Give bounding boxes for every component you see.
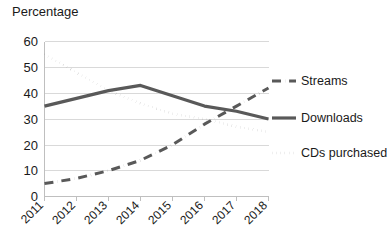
- chart-plot-area: 60 50 40 30 20 10 0 2011 2012 2013 2014 …: [0, 0, 389, 249]
- series-line-downloads: [45, 85, 269, 119]
- y-tick-label-30: 30: [24, 112, 38, 127]
- series-line-streams: [45, 88, 269, 184]
- x-tickmarks: [45, 197, 269, 201]
- line-chart: Percentage 60 50 40: [0, 0, 389, 249]
- x-tick-label-2013: 2013: [81, 198, 110, 227]
- x-tick-label-2015: 2015: [145, 198, 174, 227]
- x-tick-label-2011: 2011: [18, 198, 46, 226]
- y-tick-label-20: 20: [24, 138, 38, 153]
- legend-item-cds-purchased[interactable]: CDs purchased: [272, 146, 387, 160]
- legend-item-streams[interactable]: Streams: [272, 74, 348, 88]
- x-tick-labels: 2011 2012 2013 2014 2015 2016 2017 2018: [18, 198, 270, 227]
- legend-label-streams: Streams: [301, 74, 348, 88]
- y-tick-label-60: 60: [24, 34, 38, 49]
- y-tick-label-40: 40: [24, 86, 38, 101]
- x-tick-label-2016: 2016: [177, 198, 206, 227]
- y-tick-label-50: 50: [24, 60, 38, 75]
- legend-label-downloads: Downloads: [301, 111, 363, 125]
- legend-item-downloads[interactable]: Downloads: [272, 111, 363, 125]
- x-tick-label-2017: 2017: [209, 198, 238, 227]
- x-tick-label-2018: 2018: [241, 198, 270, 227]
- legend-label-cds-purchased: CDs purchased: [301, 146, 387, 160]
- chart-legend: Streams Downloads CDs purchased: [272, 74, 387, 160]
- x-tick-label-2014: 2014: [113, 198, 142, 227]
- y-tick-label-10: 10: [24, 163, 38, 178]
- x-tick-label-2012: 2012: [49, 198, 78, 227]
- y-tick-labels: 60 50 40 30 20 10 0: [24, 34, 38, 204]
